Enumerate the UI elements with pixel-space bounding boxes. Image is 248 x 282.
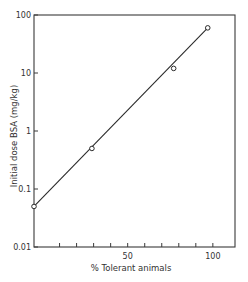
plot-border — [34, 15, 235, 247]
y-axis-label: Initial dose BSA (mg/kg) — [9, 85, 19, 187]
y-tick-label: 10 — [21, 69, 31, 78]
x-tick-label: 100 — [205, 252, 220, 261]
fit-line — [34, 28, 208, 207]
data-series — [32, 26, 210, 209]
data-point-marker — [205, 26, 210, 31]
plot-frame — [34, 15, 235, 247]
chart: 1001010.10.01 50100 % Tolerant animals I… — [0, 0, 248, 282]
x-axis: 50100 — [60, 243, 221, 261]
data-point-marker — [90, 146, 95, 151]
data-point-marker — [32, 204, 37, 209]
y-tick-label: 100 — [16, 11, 31, 20]
data-point-marker — [171, 66, 176, 71]
y-tick-label: 0.01 — [13, 243, 31, 252]
x-tick-label: 50 — [123, 252, 133, 261]
y-tick-label: 1 — [26, 127, 31, 136]
x-axis-label: % Tolerant animals — [91, 263, 172, 273]
y-tick-label: 0.1 — [18, 185, 31, 194]
